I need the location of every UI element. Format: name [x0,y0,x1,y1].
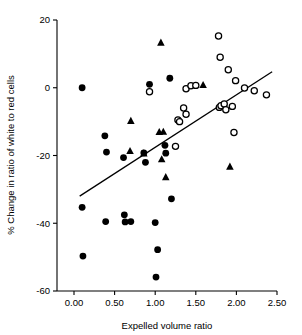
x-tick-label: 0.00 [65,297,84,308]
data-point-open-circle [181,105,187,111]
data-point-filled-circle [103,149,110,156]
data-point-filled-circle [154,246,161,253]
y-axis-label: % Change in ratio of white to red cells [5,75,16,235]
data-point-open-circle [176,119,182,125]
data-point-open-circle [263,92,269,98]
data-point-filled-circle [101,132,108,139]
data-point-open-circle [172,143,178,149]
data-point-open-circle [217,54,223,60]
data-point-open-circle [193,82,199,88]
data-point-open-circle [229,103,235,109]
figure-container: 200-20-40-60 0.000.501.001.502.002.50 Ex… [0,0,302,335]
data-point-filled-circle [102,218,109,225]
data-point-open-circle [225,67,231,73]
data-point-filled-circle [142,159,149,166]
data-point-open-circle [232,78,238,84]
data-point-filled-circle [121,211,128,218]
y-tick-label: -60 [36,285,50,296]
x-axis-label: Expelled volume ratio [122,320,213,331]
y-tick-label: 20 [39,14,50,25]
data-point-filled-circle [146,81,153,88]
data-point-open-circle [223,107,229,113]
data-point-open-circle [183,111,189,117]
data-point-filled-circle [162,142,169,149]
data-point-filled-circle [166,75,173,82]
x-tick-label: 0.50 [105,297,124,308]
data-point-open-circle [215,33,221,39]
y-tick-label: -40 [36,218,50,229]
data-point-open-circle [146,89,152,95]
data-point-filled-circle [79,204,86,211]
data-point-filled-circle [168,195,175,202]
x-tick-label: 2.00 [227,297,246,308]
data-point-open-circle [241,85,247,91]
data-point-filled-circle [79,84,86,91]
data-point-filled-circle [162,150,169,157]
data-point-filled-circle [80,253,87,260]
data-point-filled-circle [120,154,127,161]
y-tick-label: -20 [36,150,50,161]
data-point-filled-circle [127,218,134,225]
x-tick-label: 2.50 [268,297,287,308]
data-point-filled-circle [153,274,160,281]
scatter-plot: 200-20-40-60 0.000.501.001.502.002.50 Ex… [0,0,302,335]
data-point-filled-circle [152,219,159,226]
x-tick-label: 1.50 [187,297,206,308]
data-point-open-circle [251,88,257,94]
data-point-open-circle [231,129,237,135]
x-tick-label: 1.00 [146,297,165,308]
y-tick-label: 0 [45,82,50,93]
